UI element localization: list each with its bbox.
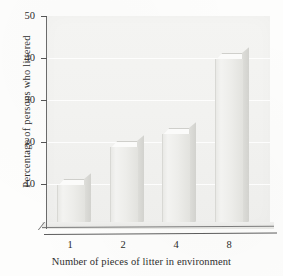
bar-front-face	[162, 134, 190, 227]
x-axis-title: Number of pieces of litter in environmen…	[0, 256, 283, 267]
x-tick-label-4: 4	[156, 239, 196, 250]
x-tick-label-1: 1	[50, 239, 90, 250]
y-tick-mark-30	[41, 100, 47, 101]
bar-category-4	[162, 134, 189, 227]
y-tick-mark-20	[41, 142, 47, 143]
bar-side-face	[189, 122, 196, 227]
bar-chart: 50 40 30 20 10 Percentage of persons who…	[0, 0, 283, 276]
y-tick-mark-50	[41, 16, 47, 17]
y-axis-title: Percentage of persons who littered	[21, 12, 32, 212]
bar-side-face	[137, 135, 144, 227]
x-tick-label-8: 8	[209, 239, 249, 250]
bar-front-face	[215, 59, 243, 227]
bar-front-face	[110, 147, 138, 227]
bar-category-8	[215, 59, 242, 227]
x-axis-line	[44, 233, 277, 236]
y-tick-mark-10	[41, 184, 47, 185]
y-axis-line	[46, 16, 47, 229]
bar-side-face	[242, 47, 249, 227]
bar-category-2	[110, 147, 137, 227]
x-tick-label-2: 2	[103, 239, 143, 250]
bar-side-face	[84, 173, 91, 227]
bar-front-face	[57, 185, 85, 227]
bar-category-1	[57, 185, 84, 227]
y-tick-mark-40	[41, 58, 47, 59]
